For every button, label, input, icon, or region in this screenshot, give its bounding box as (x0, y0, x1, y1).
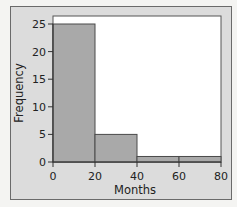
x-tick-label: 20 (88, 170, 102, 183)
y-tick-label: 0 (39, 156, 46, 169)
y-tick-label: 15 (32, 73, 46, 86)
y-tick-label: 20 (32, 46, 46, 59)
x-tick-label: 0 (50, 170, 57, 183)
y-axis: 0510152025 (32, 18, 53, 169)
histogram-bar (53, 24, 95, 162)
x-tick-label: 60 (172, 170, 186, 183)
y-axis-title: Frequency (12, 63, 26, 123)
x-tick-label: 40 (130, 170, 144, 183)
x-axis-title: Months (114, 183, 156, 197)
histogram-bar (95, 134, 137, 162)
x-tick-label: 80 (214, 170, 228, 183)
y-tick-label: 5 (39, 128, 46, 141)
histogram-bar (179, 156, 221, 162)
y-tick-label: 10 (32, 101, 46, 114)
y-tick-label: 25 (32, 18, 46, 31)
histogram-bar (137, 156, 179, 162)
x-axis: 020406080 (50, 162, 229, 183)
histogram-chart: 0510152025 020406080 Months Frequency (0, 0, 237, 207)
